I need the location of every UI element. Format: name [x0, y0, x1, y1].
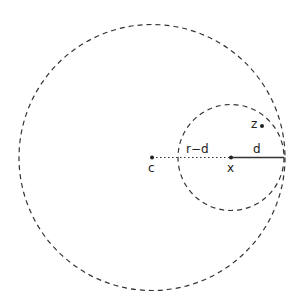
point-c	[150, 156, 154, 160]
label-z: z	[251, 117, 257, 131]
label-c: c	[148, 161, 155, 175]
diagram-canvas: c x z d r−d	[0, 0, 301, 308]
point-z	[260, 124, 264, 128]
label-d: d	[253, 142, 261, 156]
point-x	[229, 156, 233, 160]
label-r-minus-d: r−d	[186, 142, 209, 156]
label-x: x	[227, 161, 234, 175]
